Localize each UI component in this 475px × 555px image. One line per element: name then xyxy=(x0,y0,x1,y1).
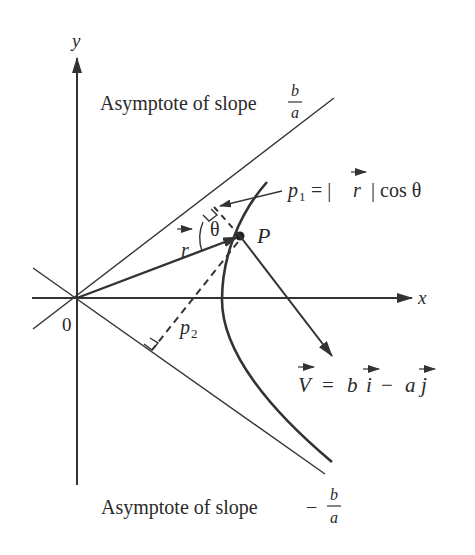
svg-text:V: V xyxy=(298,373,313,397)
svg-text:j: j xyxy=(418,373,427,397)
svg-text:a: a xyxy=(330,509,338,526)
svg-text:1: 1 xyxy=(299,189,306,204)
svg-text:a: a xyxy=(291,104,299,121)
x-axis-label: x xyxy=(417,287,427,308)
svg-text:−: − xyxy=(381,373,393,397)
svg-text:| cos θ: | cos θ xyxy=(371,179,421,202)
svg-text:Asymptote of slope: Asymptote of slope xyxy=(101,496,258,519)
svg-text:p: p xyxy=(286,179,298,202)
velocity-equation: V = b i − a j xyxy=(298,367,435,397)
origin-label: 0 xyxy=(62,314,72,335)
svg-text:Asymptote of slope: Asymptote of slope xyxy=(100,92,257,115)
p2-label: p 2 xyxy=(178,316,198,341)
position-vector-r xyxy=(77,237,238,298)
svg-text:2: 2 xyxy=(191,326,198,341)
svg-text:p: p xyxy=(178,316,190,339)
lower-asymptote-label: Asymptote of slope − b a xyxy=(101,486,341,526)
svg-text:b: b xyxy=(347,373,358,397)
svg-text:= |: = | xyxy=(311,179,331,202)
svg-text:i: i xyxy=(366,373,372,397)
svg-text:r: r xyxy=(353,179,361,201)
svg-text:b: b xyxy=(291,82,299,99)
point-P-label: P xyxy=(256,223,270,248)
hyperbola-diagram: x y 0 Asymptote of slope b a Asymptote o… xyxy=(0,0,475,555)
svg-text:−: − xyxy=(306,496,317,518)
y-axis-label: y xyxy=(70,30,81,51)
asymptotes xyxy=(33,98,334,474)
svg-text:a: a xyxy=(405,373,416,397)
hyperbola-branch xyxy=(222,182,332,462)
upper-asymptote-label: Asymptote of slope b a xyxy=(100,82,302,121)
angle-arc xyxy=(200,222,203,251)
svg-text:b: b xyxy=(330,486,338,503)
p1-equation: p 1 = | r | cos θ xyxy=(286,172,421,204)
theta-label: θ xyxy=(210,218,220,240)
svg-text:=: = xyxy=(322,373,334,397)
upper-asymptote-line xyxy=(33,98,334,329)
velocity-vector xyxy=(240,236,332,356)
svg-text:r: r xyxy=(181,239,189,261)
